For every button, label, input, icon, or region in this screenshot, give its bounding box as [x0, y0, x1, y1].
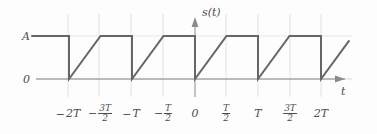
x-tick-label-minus-T: −T — [122, 108, 140, 120]
y-axis-label: s(t) — [202, 7, 221, 18]
fraction-denominator: 2 — [222, 114, 230, 123]
fraction: 3T2 — [98, 104, 112, 124]
tick-value: 2T — [66, 107, 80, 120]
minus-sign: − — [56, 109, 65, 120]
x-tick-label-minus-3T-over-2: −3T2 — [88, 104, 112, 124]
minus-sign: − — [88, 108, 97, 119]
tick-value: T — [132, 107, 139, 120]
x-tick-label-T: T — [254, 108, 261, 119]
x-tick-label-T-over-2: T2 — [222, 104, 230, 124]
minus-sign: − — [122, 109, 131, 120]
x-tick-label-2T: 2T — [314, 108, 328, 119]
fraction: 3T2 — [283, 104, 297, 124]
fraction-denominator: 2 — [283, 114, 297, 123]
x-axis-label: t — [341, 86, 345, 97]
waveform-figure: A 0 s(t) t −2T −3T2 −T −T2 0 T2 T 3T2 2T — [0, 0, 377, 134]
fraction: T2 — [164, 104, 172, 124]
x-axis — [36, 76, 345, 83]
x-tick-label-minus-2T: −2T — [56, 108, 81, 120]
minus-sign: − — [154, 108, 163, 119]
y-tick-label-A: A — [22, 31, 30, 42]
signal-curve — [31, 36, 349, 79]
y-tick-label-zero: 0 — [23, 74, 30, 85]
fraction-denominator: 2 — [98, 114, 112, 123]
fraction: T2 — [222, 104, 230, 124]
x-tick-label-zero: 0 — [192, 108, 199, 119]
x-tick-label-3T-over-2: 3T2 — [283, 104, 297, 124]
fraction-denominator: 2 — [164, 114, 172, 123]
x-tick-label-minus-T-over-2: −T2 — [154, 104, 172, 124]
